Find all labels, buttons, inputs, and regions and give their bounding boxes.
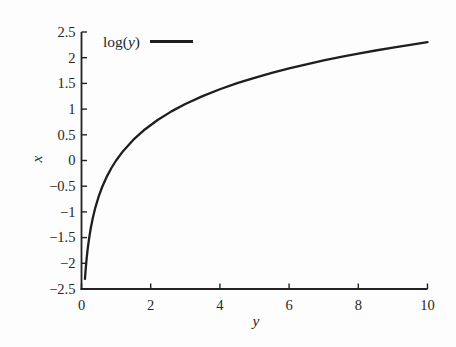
y-tick-label: 2.5 bbox=[57, 24, 75, 40]
x-tick-label: 8 bbox=[355, 297, 362, 313]
x-tick-label: 0 bbox=[78, 297, 85, 313]
legend-line-sample bbox=[150, 40, 193, 43]
legend: log(y) bbox=[103, 31, 193, 52]
y-tick-label: −0.5 bbox=[49, 178, 75, 194]
legend-label-text: log( bbox=[103, 33, 128, 50]
y-tick-label: 1.5 bbox=[57, 75, 75, 91]
x-tick-label: 10 bbox=[420, 297, 435, 313]
plot-area: 0246810−2.5−2−1.5−1−0.500.511.522.5 bbox=[0, 0, 456, 347]
legend-label-variable: y bbox=[128, 33, 135, 50]
curve-log-y- bbox=[85, 42, 428, 279]
legend-label: log(y) bbox=[103, 33, 140, 51]
x-tick-label: 6 bbox=[285, 297, 292, 313]
chart-figure: 0246810−2.5−2−1.5−1−0.500.511.522.5 x y … bbox=[0, 0, 456, 347]
y-tick-label: 0 bbox=[68, 152, 75, 168]
y-tick-label: −2.5 bbox=[49, 281, 75, 297]
y-tick-label: −1 bbox=[60, 204, 75, 220]
y-tick-label: 1 bbox=[68, 101, 75, 117]
y-tick-label: 0.5 bbox=[57, 127, 75, 143]
y-tick-label: 2 bbox=[68, 50, 75, 66]
x-tick-label: 4 bbox=[216, 297, 224, 313]
y-tick-label: −1.5 bbox=[49, 229, 75, 245]
y-axis-title: x bbox=[27, 149, 47, 169]
legend-label-text: ) bbox=[135, 33, 140, 50]
x-tick-label: 2 bbox=[147, 297, 154, 313]
y-tick-label: −2 bbox=[60, 255, 75, 271]
x-axis-title: y bbox=[246, 313, 266, 329]
